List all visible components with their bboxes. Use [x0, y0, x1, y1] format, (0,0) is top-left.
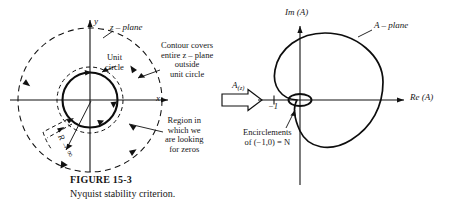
a-plane-leader	[358, 30, 372, 37]
block-arrow-shape	[222, 90, 262, 111]
figure-number: FIGURE 15-3	[70, 174, 132, 185]
outer-arc-arrow-bottom-left	[61, 161, 68, 169]
outer-arc-arrow-left	[23, 79, 31, 86]
mapping-operator-label: A(z)	[232, 80, 244, 91]
spoke-joining-arc	[43, 132, 52, 150]
mapping-operator-sub: (z)	[238, 84, 245, 91]
right-plot-a-plane	[258, 26, 404, 185]
outer-arc-arrow-bottom	[129, 149, 137, 156]
im-axis-label: Im (A)	[285, 7, 308, 17]
z-plane-label: z – plane	[110, 22, 143, 32]
a-plane-label: A – plane	[374, 20, 408, 30]
outer-arc-arrow-right	[130, 66, 137, 74]
nyquist-figure	[0, 0, 460, 211]
encirclements-note: Encirclements of (−1,0) = N	[243, 128, 292, 147]
contour-coverage-note: Contour covers entire z – plane outside …	[161, 41, 213, 79]
encirclements-leader-arrow	[290, 110, 295, 116]
left-plot-z-plane	[10, 20, 168, 172]
y-axis-arrowhead	[87, 20, 92, 27]
critical-point-label: −1	[268, 102, 278, 112]
re-axis-label: Re (A)	[410, 92, 433, 102]
x-axis-label: x	[156, 93, 160, 103]
mapping-arrow	[222, 90, 262, 111]
re-axis-arrowhead	[397, 97, 404, 102]
im-axis-arrowhead	[297, 26, 302, 33]
region-of-zeros-note: Region in which we are looking for zeros	[165, 116, 203, 154]
unit-circle-label: Unit circle	[105, 53, 124, 72]
figure-caption: Nyquist stability criterion.	[70, 188, 175, 199]
y-axis-label: y	[94, 16, 98, 26]
